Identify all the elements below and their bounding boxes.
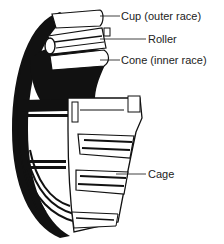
label-cage: Cage <box>148 168 174 180</box>
lower-rollers <box>28 100 68 169</box>
label-roller: Roller <box>148 33 177 45</box>
label-cone-inner-race: Cone (inner race) <box>121 54 207 66</box>
tapered-roller-bearing-diagram <box>0 0 224 244</box>
label-cup-outer-race: Cup (outer race) <box>121 10 201 22</box>
cage <box>68 96 142 232</box>
